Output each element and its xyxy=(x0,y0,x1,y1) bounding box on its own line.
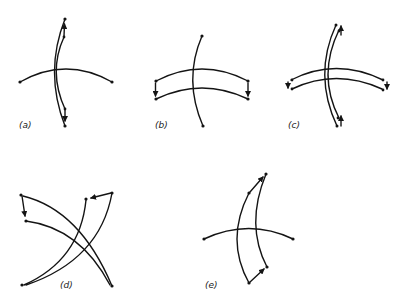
panel-e: (e) xyxy=(202,172,294,290)
arrow-icon xyxy=(250,269,264,282)
vertical-arc-right xyxy=(256,174,267,267)
arc-3 xyxy=(26,193,112,285)
panel-label: (d) xyxy=(60,280,73,290)
horizontal-arc-bottom xyxy=(156,88,248,99)
panel-a: (a) xyxy=(18,17,113,130)
arrow-icon xyxy=(64,24,65,36)
vertical-arc-left xyxy=(237,193,249,283)
panel-label: (a) xyxy=(19,120,32,130)
horizontal-arc-bottom xyxy=(292,79,382,90)
panel-label: (b) xyxy=(155,120,168,130)
arc-2 xyxy=(26,221,110,285)
panel-label: (c) xyxy=(288,120,300,130)
vertical-arc xyxy=(193,36,203,126)
arrow-icon xyxy=(22,196,25,216)
horizontal-arc-top xyxy=(156,69,248,81)
arrow-icon xyxy=(91,193,111,198)
panel-b: (b) xyxy=(154,34,249,130)
horizontal-arc xyxy=(20,69,112,82)
panel-c: (c) xyxy=(288,24,387,131)
panel-d: (d) xyxy=(19,191,113,290)
panel-label: (e) xyxy=(205,280,218,290)
horizontal-arc xyxy=(204,229,293,240)
arc-1 xyxy=(23,196,112,286)
figure-canvas: (a) (b) (c) xyxy=(0,0,402,307)
